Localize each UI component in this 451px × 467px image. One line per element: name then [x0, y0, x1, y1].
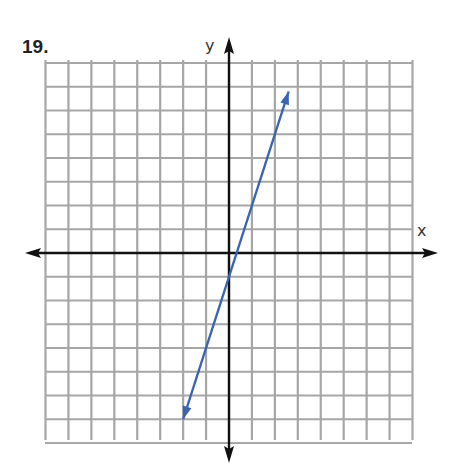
- plotted-line: [183, 92, 289, 420]
- coordinate-plane: [0, 0, 451, 467]
- line-down-arrow-icon: [183, 405, 192, 419]
- axes: [25, 37, 438, 463]
- line-up-arrow-icon: [280, 92, 289, 106]
- line-segment: [183, 92, 289, 420]
